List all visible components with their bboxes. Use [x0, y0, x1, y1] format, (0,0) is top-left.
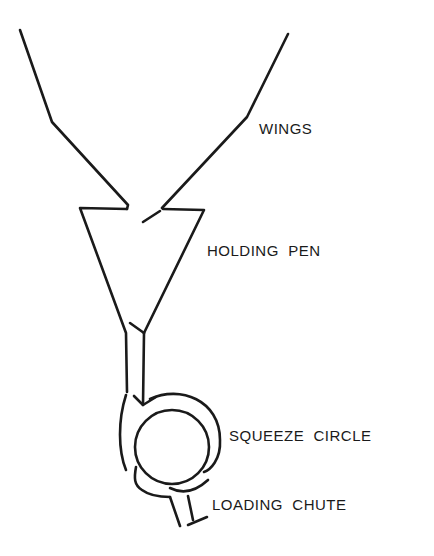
label-loading-chute: LOADING CHUTE — [212, 496, 347, 513]
label-squeeze-circle: SQUEEZE CIRCLE — [229, 427, 372, 444]
outer-circle-arc — [150, 394, 220, 472]
cattle-handling-diagram: WINGS HOLDING PEN SQUEEZE CIRCLE LOADING… — [0, 0, 434, 556]
holding-pen-gate — [143, 211, 160, 222]
holding-pen-right-top — [144, 209, 204, 333]
squeeze-circle — [135, 410, 209, 484]
label-holding-pen: HOLDING PEN — [207, 242, 321, 259]
holding-pen-left — [80, 208, 127, 392]
outer-circle-left — [120, 395, 126, 470]
holding-pen-inner-gate — [130, 323, 144, 333]
chute-end — [188, 517, 207, 525]
left-wing — [20, 30, 128, 209]
chute-right — [188, 496, 193, 520]
label-wings: WINGS — [259, 120, 312, 137]
diagram-drawing — [0, 0, 434, 556]
lower-enclosure-right — [170, 480, 208, 491]
chute-left — [170, 497, 180, 526]
alley-right — [143, 333, 144, 405]
